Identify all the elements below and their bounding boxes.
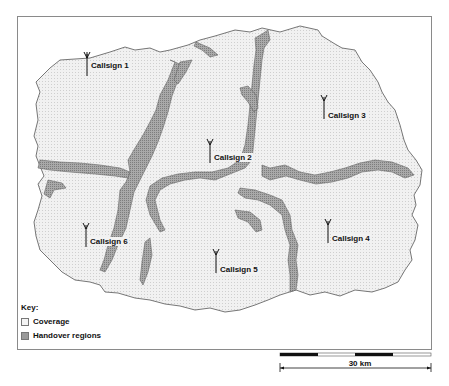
key-title: Key: xyxy=(21,303,38,312)
key-item-label: Handover regions xyxy=(33,331,101,340)
station-label-3: Callsign 3 xyxy=(327,111,367,120)
station-label-1: Callsign 1 xyxy=(90,61,130,70)
handover-swatch xyxy=(21,332,29,340)
station-label-5: Callsign 5 xyxy=(219,265,259,274)
station-label-6: Callsign 6 xyxy=(89,237,129,246)
coverage-swatch xyxy=(21,318,29,326)
scale-label: 30 km xyxy=(340,359,380,368)
coverage-map xyxy=(0,0,449,386)
key-item-label: Coverage xyxy=(33,317,69,326)
station-label-4: Callsign 4 xyxy=(331,234,371,243)
key-item-handover: Handover regions xyxy=(21,331,101,340)
station-label-2: Callsign 2 xyxy=(213,153,253,162)
key-item-coverage: Coverage xyxy=(21,317,69,326)
